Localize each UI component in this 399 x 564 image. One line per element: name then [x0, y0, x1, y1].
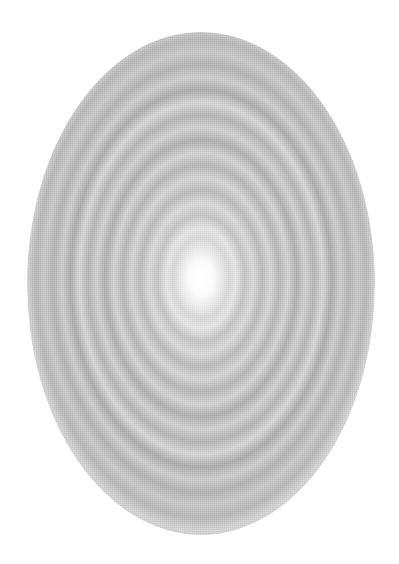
concentric-rings-ellipse: [27, 32, 375, 535]
rings-graphic: [27, 32, 375, 535]
